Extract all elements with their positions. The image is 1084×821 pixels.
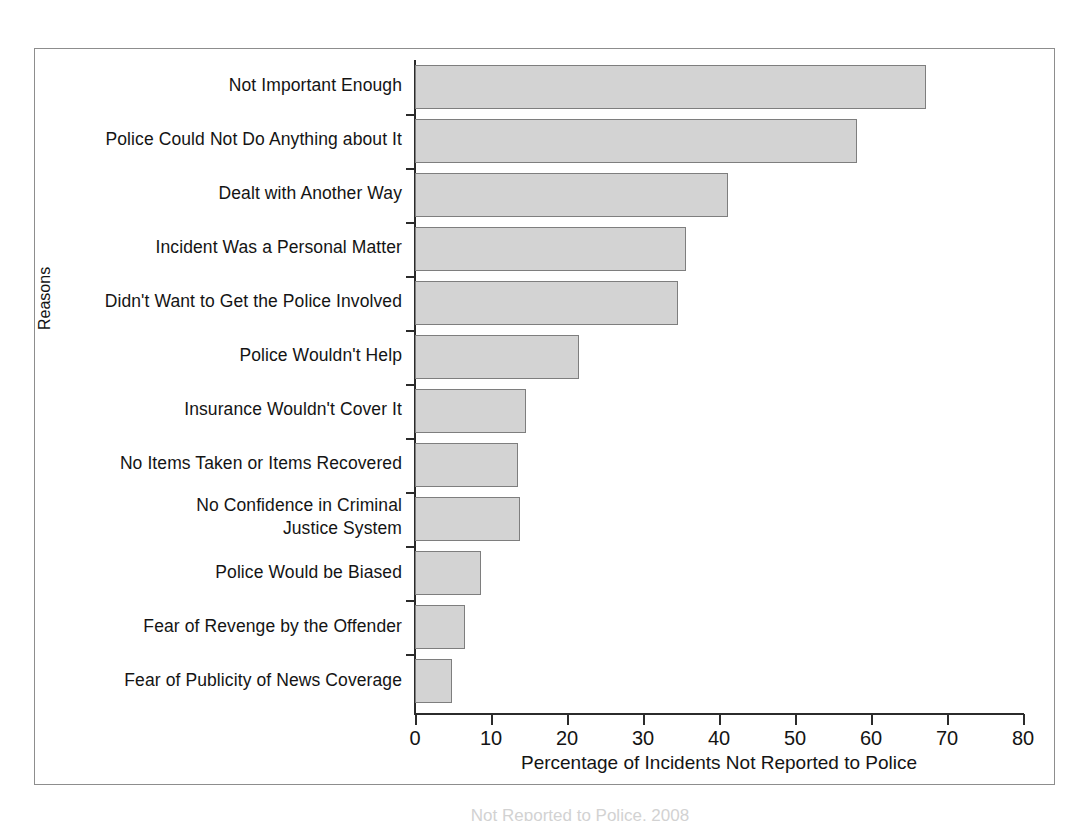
y-axis-tick xyxy=(406,168,416,170)
x-axis-tick-label: 10 xyxy=(480,727,502,750)
category-label: Fear of Publicity of News Coverage xyxy=(124,669,402,692)
category-label: Not Important Enough xyxy=(229,74,402,97)
y-axis-tick xyxy=(406,546,416,548)
x-axis-tick-label: 80 xyxy=(1012,727,1034,750)
x-axis-tick xyxy=(947,714,949,725)
bar-dealt-with-another-way[interactable] xyxy=(415,173,728,217)
x-axis-tick xyxy=(491,714,493,725)
bar-fear-of-revenge[interactable] xyxy=(415,605,465,649)
bar-incident-personal-matter[interactable] xyxy=(415,227,686,271)
y-axis-tick xyxy=(406,276,416,278)
category-label: Didn't Want to Get the Police Involved xyxy=(105,290,402,313)
y-axis-tick xyxy=(406,384,416,386)
bar-not-important-enough[interactable] xyxy=(415,65,926,109)
x-axis-tick-label: 70 xyxy=(936,727,958,750)
y-axis-tick xyxy=(406,330,416,332)
bar-police-would-be-biased[interactable] xyxy=(415,551,481,595)
x-axis-tick-label: 20 xyxy=(556,727,578,750)
category-label: Police Wouldn't Help xyxy=(239,344,402,367)
x-axis-tick xyxy=(871,714,873,725)
category-label: Incident Was a Personal Matter xyxy=(156,236,403,259)
x-axis-title: Percentage of Incidents Not Reported to … xyxy=(415,752,1023,774)
category-label: Dealt with Another Way xyxy=(219,182,402,205)
x-axis-tick-label: 0 xyxy=(409,727,420,750)
y-axis-tick xyxy=(406,222,416,224)
bar-police-wouldnt-help[interactable] xyxy=(415,335,579,379)
x-axis-tick-label: 30 xyxy=(632,727,654,750)
category-label-column: Not Important Enough Police Could Not Do… xyxy=(60,62,402,712)
x-axis-tick xyxy=(1023,714,1025,725)
plot-area xyxy=(415,62,1023,712)
bar-police-could-not-do-anything[interactable] xyxy=(415,119,857,163)
bar-no-items-taken[interactable] xyxy=(415,443,518,487)
category-label: No Items Taken or Items Recovered xyxy=(120,452,402,475)
x-axis-tick xyxy=(643,714,645,725)
x-axis-tick xyxy=(415,714,417,725)
x-axis-tick xyxy=(567,714,569,725)
y-axis-title: Reasons xyxy=(36,267,54,330)
x-axis-tick xyxy=(795,714,797,725)
bar-no-confidence-criminal-justice[interactable] xyxy=(415,497,520,541)
category-label: Insurance Wouldn't Cover It xyxy=(184,398,402,421)
y-axis-tick xyxy=(406,654,416,656)
y-axis-tick xyxy=(406,114,416,116)
y-axis-tick xyxy=(406,600,416,602)
bar-insurance-wouldnt-cover[interactable] xyxy=(415,389,526,433)
y-axis-tick xyxy=(406,438,416,440)
x-axis-tick-label: 50 xyxy=(784,727,806,750)
category-label: Fear of Revenge by the Offender xyxy=(143,615,402,638)
x-axis-tick xyxy=(719,714,721,725)
y-axis-tick xyxy=(406,492,416,494)
category-label: Police Would be Biased xyxy=(215,561,402,584)
category-label: No Confidence in Criminal Justice System xyxy=(196,494,402,540)
page-footnote: Not Reported to Police, 2008 xyxy=(300,806,860,821)
x-axis-tick-label: 40 xyxy=(708,727,730,750)
bar-chart: Not Important Enough Police Could Not Do… xyxy=(0,0,1084,821)
x-axis-tick-label: 60 xyxy=(860,727,882,750)
bar-fear-of-publicity[interactable] xyxy=(415,659,452,703)
category-label: Police Could Not Do Anything about It xyxy=(105,128,402,151)
bar-didnt-want-police-involved[interactable] xyxy=(415,281,678,325)
